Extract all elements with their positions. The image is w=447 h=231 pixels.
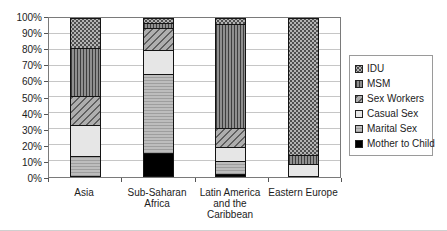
stacked-bar-chart: 100%90%80%70%60%50%40%30%20%10%0% AsiaSu… [0,0,447,231]
y-tick-mark [44,81,48,82]
y-tick-label: 30% [2,125,42,136]
bar-segment-msm [70,48,101,97]
x-tick-mark [268,178,269,182]
x-tick-mark [341,178,342,182]
y-tick-label: 70% [2,60,42,71]
bar-segment-sex-workers [143,28,174,51]
bottom-divider [0,230,447,231]
bar-segment-marital-sex [215,161,246,175]
bar-segment-idu [288,18,319,156]
y-tick-label: 100% [2,12,42,23]
x-tick-mark [195,178,196,182]
legend-label: Casual Sex [367,108,418,119]
legend-swatch-icon [355,110,363,118]
bar-segment-msm [288,155,319,165]
y-tick-label: 50% [2,93,42,104]
x-tick-mark [48,178,49,182]
y-tick-mark [44,65,48,66]
bar-segment-idu [70,18,101,49]
legend-label: Sex Workers [367,93,424,104]
bar-segment-idu [143,18,174,24]
y-tick-label: 60% [2,76,42,87]
legend-swatch-icon [355,140,363,148]
plot-area [48,17,341,178]
bar-segment-idu [215,18,246,25]
y-tick-label: 40% [2,109,42,120]
bar-eastern-europe [288,18,319,177]
bar-latin-america-and-the-caribbean [215,18,246,177]
y-tick-mark [44,33,48,34]
legend-swatch-icon [355,95,363,103]
bar-asia [70,18,101,177]
legend-item-casual-sex: Casual Sex [355,106,428,121]
legend-swatch-icon [355,80,363,88]
y-tick-mark [44,17,48,18]
legend-label: Mother to Child [367,138,435,149]
legend-swatch-icon [355,125,363,133]
bar-segment-sex-workers [215,128,246,148]
x-category-label: Eastern Europe [258,187,348,198]
bar-segment-msm [215,24,246,129]
y-tick-mark [44,162,48,163]
y-tick-mark [44,130,48,131]
bar-segment-casual-sex [215,147,246,162]
y-tick-label: 90% [2,28,42,39]
legend-label: MSM [367,78,390,89]
y-tick-mark [44,49,48,50]
y-tick-label: 0% [2,173,42,184]
bar-sub-saharan-africa [143,18,174,177]
legend-swatch-icon [355,65,363,73]
legend-item-marital-sex: Marital Sex [355,121,428,136]
legend-item-msm: MSM [355,76,428,91]
y-tick-mark [44,114,48,115]
bar-segment-marital-sex [143,74,174,154]
legend-item-idu: IDU [355,61,428,76]
bar-segment-marital-sex [70,156,101,177]
y-tick-label: 10% [2,157,42,168]
legend: IDUMSMSex WorkersCasual SexMarital SexMo… [349,55,433,156]
x-tick-mark [121,178,122,182]
y-tick-mark [44,146,48,147]
bar-segment-sex-workers [70,96,101,126]
y-tick-label: 20% [2,141,42,152]
legend-item-sex-workers: Sex Workers [355,91,428,106]
y-tick-mark [44,98,48,99]
bar-segment-casual-sex [288,164,319,177]
legend-label: IDU [367,63,384,74]
legend-item-mother-to-child: Mother to Child [355,136,428,151]
bar-segment-casual-sex [143,50,174,75]
y-tick-label: 80% [2,44,42,55]
legend-label: Marital Sex [367,123,417,134]
bar-segment-casual-sex [70,125,101,157]
bar-segment-mother-to-child [143,153,174,177]
